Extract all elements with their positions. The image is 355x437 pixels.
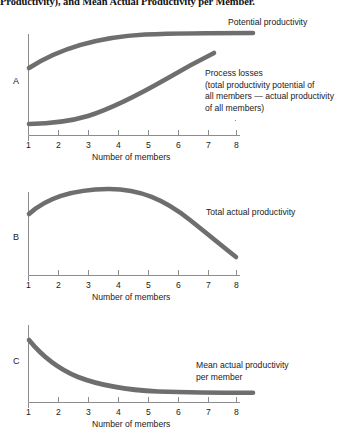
panel-b-tick-6: 6 bbox=[172, 280, 186, 290]
panel-b-plot bbox=[0, 180, 355, 320]
panel-c-plot bbox=[0, 320, 355, 437]
panel-c-tick-7: 7 bbox=[202, 407, 216, 417]
panel-a-tick-1: 1 bbox=[22, 140, 36, 150]
label-total-actual-productivity: Total actual productivity bbox=[206, 207, 295, 218]
label-process-losses-detail-3: of all members) bbox=[205, 103, 264, 114]
panel-b-tick-5: 5 bbox=[142, 280, 156, 290]
label-process-losses-detail-2: all members — actual productivity bbox=[205, 91, 334, 102]
panel-b-tick-2: 2 bbox=[52, 280, 66, 290]
panel-b-tick-7: 7 bbox=[202, 280, 216, 290]
label-mean-actual-productivity: Mean actual productivity bbox=[196, 360, 289, 371]
panel-b-tick-4: 4 bbox=[112, 280, 126, 290]
panel-c-tick-6: 6 bbox=[172, 407, 186, 417]
panel-c-tick-8: 8 bbox=[230, 407, 244, 417]
panel-c-x-axis-title: Number of members bbox=[92, 419, 170, 429]
panel-letter-a: A bbox=[13, 76, 19, 86]
panel-a-tick-4: 4 bbox=[112, 140, 126, 150]
panel-c-tick-5: 5 bbox=[142, 407, 156, 417]
panel-c-tick-4: 4 bbox=[112, 407, 126, 417]
panel-c-tick-1: 1 bbox=[22, 407, 36, 417]
panel-b-tick-8: 8 bbox=[230, 280, 244, 290]
panel-a-tick-8: 8 bbox=[230, 140, 244, 150]
label-process-losses-detail-1: (total productivity potential of bbox=[205, 80, 314, 91]
panel-b-x-axis-title: Number of members bbox=[92, 292, 170, 302]
panel-a-tick-6: 6 bbox=[172, 140, 186, 150]
panel-letter-c: C bbox=[13, 356, 20, 366]
label-process-losses: Process losses bbox=[205, 68, 263, 79]
curve-process-losses bbox=[29, 53, 214, 124]
label-mean-actual-productivity-line2: per member bbox=[196, 372, 242, 383]
curve-total-actual-productivity bbox=[29, 189, 236, 257]
panel-letter-b: B bbox=[13, 232, 19, 242]
chart-panel-b: B Total actual productivity 1 2 3 4 5 6 … bbox=[0, 180, 355, 320]
figure-caption: Productivity), and Mean Actual Productiv… bbox=[0, 0, 355, 8]
chart-panel-a: A Potential productivity Process losses … bbox=[0, 12, 355, 180]
panel-a-tick-7: 7 bbox=[202, 140, 216, 150]
label-potential-productivity: Potential productivity bbox=[228, 17, 307, 28]
panel-a-x-axis-title: Number of members bbox=[92, 152, 170, 162]
panel-a-tick-5: 5 bbox=[142, 140, 156, 150]
panel-b-tick-3: 3 bbox=[82, 280, 96, 290]
panel-a-tick-2: 2 bbox=[52, 140, 66, 150]
panel-a-tick-3: 3 bbox=[82, 140, 96, 150]
stray-mark bbox=[235, 120, 236, 121]
curve-potential-productivity bbox=[29, 33, 253, 68]
panel-c-tick-2: 2 bbox=[52, 407, 66, 417]
panel-c-tick-3: 3 bbox=[82, 407, 96, 417]
panel-b-tick-1: 1 bbox=[22, 280, 36, 290]
chart-panel-c: C Mean actual productivity per member 1 … bbox=[0, 320, 355, 437]
